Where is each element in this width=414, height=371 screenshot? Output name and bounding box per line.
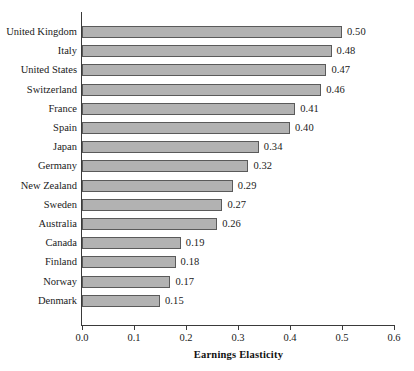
category-label: Switzerland [0,85,77,96]
category-label: Australia [0,219,77,230]
bar-value-label: 0.48 [337,46,356,57]
x-tick-label: 0.6 [374,333,414,344]
bar-value-label: 0.18 [181,257,200,268]
category-label: Denmark [0,296,77,307]
category-label: Canada [0,238,77,249]
bar-value-label: 0.26 [222,219,241,230]
category-label: Sweden [0,200,77,211]
bar-row: 0.26 [82,218,414,230]
bar [82,218,217,230]
bar-row: 0.15 [82,295,414,307]
x-tick [290,325,291,330]
bar-value-label: 0.15 [165,296,184,307]
bar-row: 0.27 [82,199,414,211]
category-label: Spain [0,123,77,134]
bar-value-label: 0.19 [186,238,205,249]
category-label: United Kingdom [0,27,77,38]
bar-value-label: 0.29 [238,180,257,191]
x-tick [394,325,395,330]
bar [82,180,233,192]
category-label: United States [0,65,77,76]
bar-row: 0.40 [82,122,414,134]
bar-row: 0.41 [82,103,414,115]
x-tick-label: 0.3 [218,333,258,344]
x-tick-label: 0.1 [114,333,154,344]
x-tick-label: 0.2 [166,333,206,344]
category-label: Norway [0,277,77,288]
bar-value-label: 0.41 [300,104,319,115]
x-tick [342,325,343,330]
category-label: New Zealand [0,181,77,192]
bar-row: 0.32 [82,160,414,172]
x-tick-label: 0.4 [270,333,310,344]
bar [82,160,248,172]
category-label: Italy [0,46,77,57]
bar [82,103,295,115]
bar [82,199,222,211]
bar [82,84,321,96]
bar-value-label: 0.47 [331,65,350,76]
bar-value-label: 0.50 [347,27,366,38]
bar [82,122,290,134]
bar [82,256,176,268]
bar-row: 0.29 [82,180,414,192]
bar-value-label: 0.34 [264,142,283,153]
bar [82,26,342,38]
x-tick [238,325,239,330]
bar-row: 0.17 [82,276,414,288]
category-label: Japan [0,142,77,153]
bar [82,237,181,249]
bar [82,141,259,153]
bar-row: 0.18 [82,256,414,268]
bar-value-label: 0.46 [326,84,345,95]
x-axis-title: Earnings Elasticity [82,350,395,361]
category-label: France [0,104,77,115]
category-label: Finland [0,257,77,268]
bar [82,276,170,288]
x-tick [186,325,187,330]
bar-row: 0.46 [82,84,414,96]
bar-row: 0.50 [82,26,414,38]
category-label: Germany [0,161,77,172]
x-tick [82,325,83,330]
bar-row: 0.19 [82,237,414,249]
bar [82,64,326,76]
bar-row: 0.47 [82,64,414,76]
bar-value-label: 0.32 [253,161,272,172]
bar-value-label: 0.17 [175,276,194,287]
bar [82,295,160,307]
x-tick [134,325,135,330]
bar-row: 0.34 [82,141,414,153]
x-tick-label: 0.0 [62,333,102,344]
bar-row: 0.48 [82,45,414,57]
x-tick-label: 0.5 [322,333,362,344]
bar-chart: United KingdomItalyUnited StatesSwitzerl… [0,0,414,371]
bar-value-label: 0.40 [295,123,314,134]
bar-value-label: 0.27 [227,200,246,211]
bar [82,45,332,57]
